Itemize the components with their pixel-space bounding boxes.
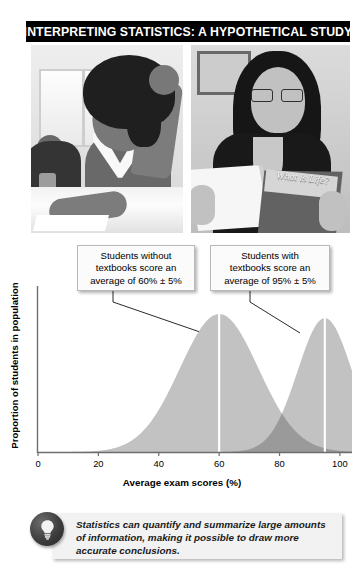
tip-box: Statistics can quantify and summarize la… [52, 513, 342, 559]
x-tick-label-60: 60 [206, 458, 232, 469]
y-axis-title: Proportion of students in population [9, 276, 20, 456]
callout-left-line-1: Students without [84, 250, 188, 262]
photo-student-without-textbook [31, 45, 183, 233]
x-tick-label-20: 20 [85, 458, 111, 469]
x-tick-label-0: 0 [25, 458, 51, 469]
photo-left-paper [33, 215, 109, 231]
figure-title-banner: INTERPRETING STATISTICS: A HYPOTHETICAL … [26, 21, 350, 42]
photo-left-student-hair-side [127, 93, 161, 147]
x-tick-label-40: 40 [146, 458, 172, 469]
x-axis-title: Average exam scores (%) [0, 477, 364, 488]
tip-text: Statistics can quantify and summarize la… [76, 519, 326, 556]
distribution-chart: Proportion of students in population Ave… [0, 286, 364, 496]
lightbulb-glyph [38, 519, 57, 540]
glasses-icon [251, 89, 303, 100]
callout-right-line-1: Students with [217, 250, 323, 262]
photo-right-student-left-hand [191, 185, 215, 225]
photo-right-student-right-hand [319, 191, 345, 231]
callout-without-textbooks: Students without textbooks score an aver… [77, 245, 195, 291]
x-tick-label-80: 80 [267, 458, 293, 469]
photo-right-content: What is Life? [191, 45, 350, 233]
callout-right-line-2: textbooks score an [217, 262, 323, 274]
lightbulb-icon [30, 512, 64, 546]
chart-plot-area [0, 286, 364, 496]
callout-with-textbooks: Students with textbooks score an average… [210, 245, 330, 291]
photo-left-content [31, 45, 183, 233]
photo-student-with-textbook: What is Life? [191, 45, 350, 233]
callout-left-line-2: textbooks score an [84, 262, 188, 274]
x-tick-label-100: 100 [327, 458, 353, 469]
page-title: INTERPRETING STATISTICS: A HYPOTHETICAL … [24, 25, 353, 39]
figure-page: INTERPRETING STATISTICS: A HYPOTHETICAL … [0, 0, 364, 568]
photo-left-student-hand [149, 65, 179, 95]
